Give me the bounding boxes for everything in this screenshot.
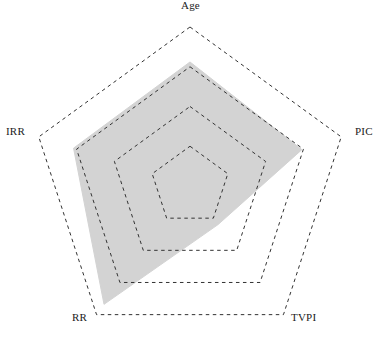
data-polygon [74,62,302,304]
axis-label-rr: RR [72,311,87,323]
axis-label-tvpi: TVPI [291,311,316,323]
radar-chart: Age PIC TVPI RR IRR [0,0,380,350]
axis-label-age: Age [181,0,200,11]
axis-label-pic: PIC [355,125,373,137]
axis-label-irr: IRR [6,125,25,137]
data-polygon-group [74,62,302,304]
radar-chart-canvas [0,0,380,350]
